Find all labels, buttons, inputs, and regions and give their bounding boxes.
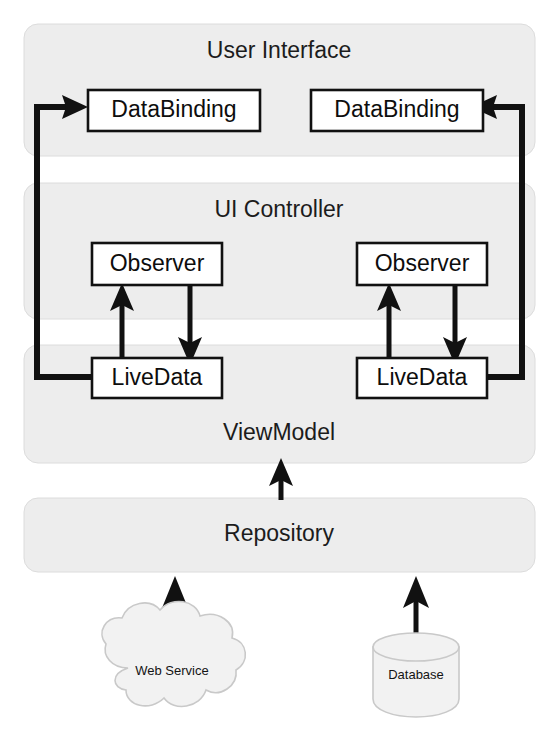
node-livedata-left[interactable]: LiveData	[92, 358, 222, 398]
layer-title-viewmodel: ViewModel	[223, 419, 335, 445]
node-livedata-right[interactable]: LiveData	[357, 358, 487, 398]
node-label-databinding-right: DataBinding	[334, 96, 459, 122]
node-observer-right[interactable]: Observer	[357, 243, 487, 285]
source-label-web-service: Web Service	[135, 663, 208, 678]
node-databinding-left[interactable]: DataBinding	[88, 90, 260, 131]
layer-repository: Repository	[24, 498, 535, 572]
source-label-database: Database	[388, 667, 444, 682]
source-web-service[interactable]: Web Service	[102, 601, 245, 706]
node-label-observer-right: Observer	[375, 250, 470, 276]
architecture-diagram: User Interface UI Controller ViewModel R…	[0, 0, 559, 745]
node-databinding-right[interactable]: DataBinding	[311, 90, 483, 131]
layer-title-ui-controller: UI Controller	[214, 196, 343, 222]
layer-title-repository: Repository	[224, 520, 334, 546]
cloud-shape-web-service[interactable]	[102, 601, 245, 706]
node-label-livedata-left: LiveData	[112, 364, 203, 390]
source-database[interactable]: Database	[373, 633, 459, 717]
layer-title-user-interface: User Interface	[207, 37, 351, 63]
architecture-diagram-canvas: User Interface UI Controller ViewModel R…	[0, 0, 559, 745]
node-label-databinding-left: DataBinding	[111, 96, 236, 122]
node-label-livedata-right: LiveData	[377, 364, 468, 390]
cylinder-top-database	[373, 633, 459, 661]
node-observer-left[interactable]: Observer	[92, 243, 222, 285]
node-label-observer-left: Observer	[110, 250, 205, 276]
